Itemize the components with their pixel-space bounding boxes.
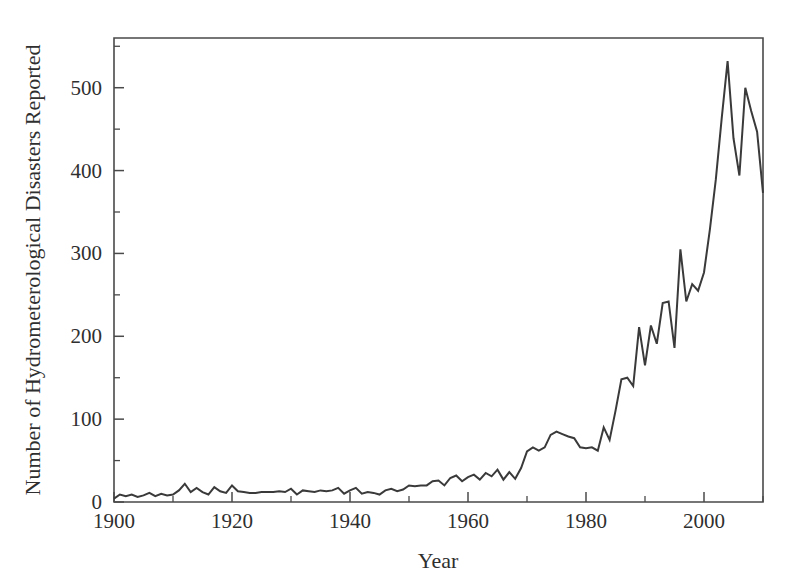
x-tick-label: 1940 — [329, 509, 371, 533]
y-tick-label: 400 — [71, 159, 103, 183]
y-tick-label: 100 — [71, 407, 103, 431]
y-tick-label: 200 — [71, 324, 103, 348]
line-chart: 0100200300400500 19001920194019601980200… — [0, 0, 804, 585]
y-tick-label: 500 — [71, 76, 103, 100]
plot-background — [114, 38, 763, 502]
chart-figure: 0100200300400500 19001920194019601980200… — [0, 0, 804, 585]
y-axis-tick-labels: 0100200300400500 — [71, 76, 103, 514]
x-axis-title: Year — [418, 548, 459, 573]
x-tick-label: 1980 — [565, 509, 607, 533]
x-axis-tick-labels: 190019201940196019802000 — [93, 509, 725, 533]
y-tick-label: 300 — [71, 241, 103, 265]
x-tick-label: 2000 — [683, 509, 725, 533]
y-axis-title: Number of Hydrometerological Disasters R… — [20, 45, 45, 496]
x-tick-label: 1960 — [447, 509, 489, 533]
x-tick-label: 1920 — [211, 509, 253, 533]
x-tick-label: 1900 — [93, 509, 135, 533]
